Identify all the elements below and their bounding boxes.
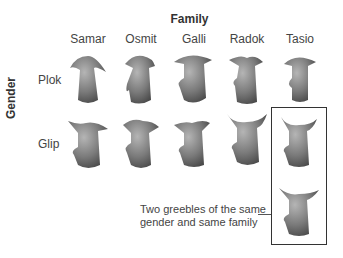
- greeble-tasio-glip-2: [277, 182, 321, 240]
- greeble-tasio-glip-1: [277, 113, 321, 171]
- greeble-radok-glip: [225, 110, 269, 168]
- caption-line-2: gender and same family: [140, 216, 266, 229]
- greeble-tasio-plok: [278, 50, 322, 108]
- family-label-galli: Galli: [164, 32, 224, 46]
- greeble-galli-plok: [172, 48, 216, 106]
- family-label-tasio: Tasio: [270, 32, 330, 46]
- family-label-osmit: Osmit: [111, 32, 171, 46]
- caption: Two greebles of the same gender and same…: [140, 203, 266, 229]
- caption-line-1: Two greebles of the same: [140, 203, 266, 216]
- gender-axis-title: Gender: [4, 68, 18, 128]
- greeble-radok-plok: [225, 50, 269, 108]
- family-axis-title: Family: [0, 12, 343, 26]
- greeble-osmit-glip: [119, 115, 163, 173]
- greeble-samar-plok: [66, 50, 110, 108]
- gender-label-glip: Glip: [38, 137, 59, 151]
- greeble-samar-glip: [66, 115, 110, 173]
- family-label-samar: Samar: [58, 32, 118, 46]
- family-label-radok: Radok: [217, 32, 277, 46]
- greeble-osmit-plok: [119, 50, 163, 108]
- gender-label-plok: Plok: [38, 73, 61, 87]
- greeble-galli-glip: [172, 113, 216, 171]
